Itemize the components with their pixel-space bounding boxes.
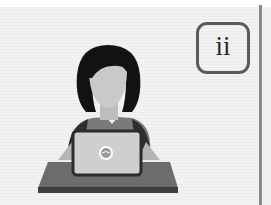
laptop-logo-icon <box>100 147 112 159</box>
person-at-laptop-icon <box>0 0 271 205</box>
